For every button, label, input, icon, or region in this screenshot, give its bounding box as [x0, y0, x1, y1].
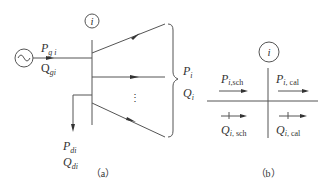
branch-upper	[92, 24, 165, 53]
branch-p-label: Pi	[182, 64, 193, 80]
p-sch-label: Pi,sch	[220, 72, 243, 87]
bus-label-b: i	[267, 46, 270, 58]
caption-b: （b）	[256, 168, 281, 179]
branch-ellipsis: ⋮	[130, 92, 140, 103]
load-line	[73, 95, 92, 128]
generator-q-label: Qgi	[41, 61, 56, 77]
brace-icon	[168, 24, 178, 137]
generator-icon	[15, 49, 33, 67]
bus-label-a: i	[90, 15, 93, 27]
p-sch-arrow-icon	[241, 89, 248, 93]
branch-middle-arrow-icon	[130, 75, 139, 79]
load-p-label: Pdi	[62, 139, 77, 155]
p-cal-label: Pi, cal	[275, 72, 300, 87]
generator-p-label: Pg i	[40, 41, 57, 57]
load-arrow-icon	[71, 124, 75, 132]
panel-a	[15, 14, 178, 137]
q-sch-arrow-icon	[240, 114, 247, 118]
q-sch-label: Qi, sch	[221, 123, 247, 138]
caption-a: （a）	[91, 168, 115, 179]
q-cal-arrow-icon	[300, 114, 307, 118]
branch-q-label: Qi	[183, 86, 194, 102]
load-q-label: Qdi	[63, 155, 78, 171]
p-cal-arrow-icon	[302, 89, 309, 93]
power-flow-diagram: i Pg i Qgi ⋮ Pi Qi Pdi Qdi （a） i Pi,sch …	[0, 0, 330, 185]
q-cal-label: Qi, cal	[276, 123, 301, 138]
